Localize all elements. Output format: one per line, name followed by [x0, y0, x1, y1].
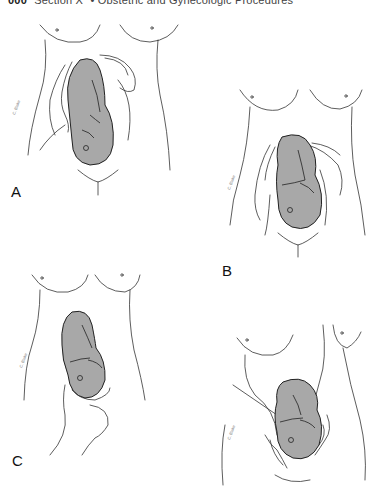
panel-label-c: C: [12, 452, 23, 469]
torso-outline: [40, 25, 100, 42]
artist-signature: C. Blake: [11, 99, 21, 116]
artist-signature: C. Blake: [226, 424, 236, 441]
torso-outline: [240, 90, 298, 110]
page-number: 000: [8, 0, 27, 6]
panel-label-a: A: [11, 183, 21, 200]
illustration-d: C. Blake: [215, 320, 381, 493]
running-header: 000 Section X • Obstetric and Gynecologi…: [8, 0, 293, 6]
artist-signature: C. Blake: [226, 174, 236, 191]
fetus-d: [275, 379, 322, 459]
fetus-a: [68, 59, 114, 165]
figure-panel-b: C. Blake: [210, 85, 381, 275]
figure-panel-a: C. Blake: [10, 20, 190, 220]
figure-panel-c: C. Blake: [10, 270, 180, 470]
panel-label-b: B: [222, 262, 232, 279]
illustration-c: C. Blake: [10, 270, 180, 470]
hand-right-outline: [100, 55, 135, 92]
figure-panel-d: C. Blake: [215, 320, 381, 493]
fetus-c: [62, 311, 105, 398]
torso-outline: [237, 335, 293, 355]
section-name: Section X: [34, 0, 83, 6]
torso-outline: [32, 275, 88, 292]
section-title: • Obstetric and Gynecologic Procedures: [90, 0, 293, 6]
illustration-b: C. Blake: [210, 85, 381, 275]
fetus-b: [277, 135, 322, 229]
hand-left-outline: [255, 145, 275, 220]
illustration-a: C. Blake: [10, 20, 190, 220]
